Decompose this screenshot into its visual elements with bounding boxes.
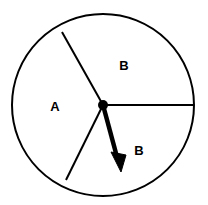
sector-label-b-bottom: B [134,143,143,158]
sector-label-b-top: B [119,58,128,73]
spinner-canvas: A B B [0,0,208,205]
spinner-pointer-hub [98,100,108,110]
spinner-pointer[interactable] [98,100,126,172]
sector-label-a: A [50,99,60,114]
spinner-pointer-arrowhead [111,152,126,172]
spinner-pointer-shaft [103,105,117,157]
sector-divider-upper-left [62,32,103,105]
sector-divider-lower-left [66,105,103,180]
spinner-diagram: A B B [0,0,208,205]
